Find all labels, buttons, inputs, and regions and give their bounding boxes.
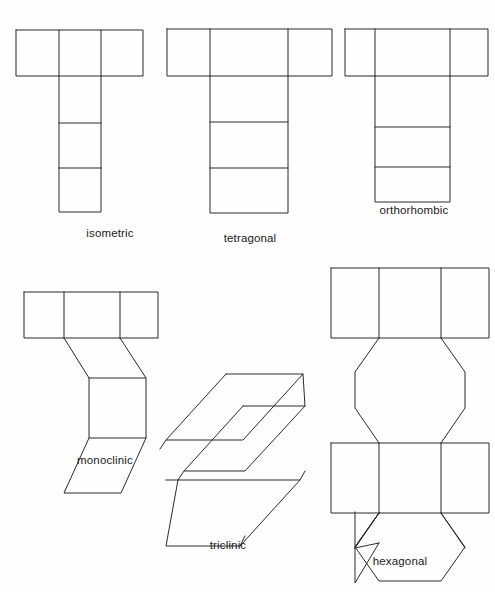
- net-label-orthorhombic: orthorhombic: [380, 205, 449, 217]
- crystal-net-figure: isometric tetragonal orthorhombic monocl…: [0, 0, 495, 592]
- net-triclinic: [160, 374, 305, 546]
- net-label-monoclinic: monoclinic: [77, 455, 133, 467]
- net-label-isometric: isometric: [86, 228, 133, 240]
- net-drawing-canvas: [0, 0, 495, 592]
- net-orthorhombic: [345, 29, 488, 202]
- net-label-triclinic: triclinic: [210, 540, 247, 552]
- net-hexagonal: [331, 268, 489, 583]
- net-label-hexagonal: hexagonal: [373, 556, 427, 568]
- net-tetragonal: [167, 29, 332, 213]
- net-isometric: [16, 30, 143, 212]
- net-hexagonal-lower-hex: [355, 513, 465, 581]
- net-label-tetragonal: tetragonal: [224, 233, 277, 245]
